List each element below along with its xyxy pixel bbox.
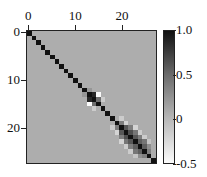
colorbar-tick-mark	[173, 164, 176, 165]
y-tick-label: 0	[0, 24, 20, 40]
x-tick-label: 0	[25, 8, 32, 24]
colorbar-tick-label: 1.0	[176, 22, 192, 38]
heatmap-plot-area	[26, 30, 157, 164]
colorbar-tick-mark	[173, 119, 176, 120]
x-tick-label: 10	[69, 8, 82, 24]
colorbar-tick-mark	[173, 30, 176, 31]
heatmap-cell	[151, 158, 156, 163]
colorbar	[163, 30, 175, 164]
y-tick-label: 10	[0, 72, 20, 88]
y-tick-label: 20	[0, 120, 20, 136]
heatmap-grid	[27, 31, 156, 163]
x-tick-label: 20	[115, 8, 128, 24]
colorbar-tick-label: 0.5	[176, 67, 192, 83]
colorbar-tick-mark	[173, 75, 176, 76]
colorbar-tick-label: -0.5	[176, 156, 197, 172]
colorbar-tick-label: 0	[176, 111, 183, 127]
